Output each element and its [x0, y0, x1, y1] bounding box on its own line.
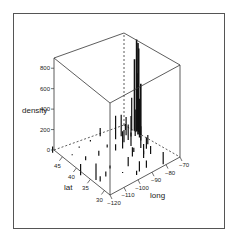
y-tick-label: 30 [96, 197, 103, 203]
z-tick-label: 200 [40, 127, 51, 133]
x-tick-label: −110 [121, 192, 135, 198]
z-axis-title: density [22, 106, 47, 115]
plot-frame [14, 14, 225, 229]
y-tick-label: 45 [54, 163, 61, 169]
plot-area: 020040060080030354045−120−110−100−90−80−… [0, 0, 234, 240]
x-tick [166, 165, 168, 169]
x-tick [124, 187, 126, 191]
y-tick-label: 35 [82, 185, 89, 191]
axes-group: 020040060080030354045−120−110−100−90−80−… [40, 65, 190, 206]
y-tick [73, 168, 76, 172]
bars-group [53, 40, 164, 182]
x-tick-label: −100 [135, 185, 149, 191]
y-tick-label: 40 [68, 174, 75, 180]
box-edge-back-left [54, 125, 124, 150]
x-tick-label: −80 [165, 170, 176, 176]
z-tick-label: 600 [40, 86, 51, 92]
x-tick [110, 195, 112, 199]
x-tick-label: −120 [107, 200, 121, 206]
box-3d-front [54, 33, 180, 195]
box-edge-top-back-left [54, 33, 124, 58]
x-tick-label: −70 [179, 162, 190, 168]
y-tick [59, 157, 62, 161]
box-edge-top-front-right [110, 65, 180, 103]
z-tick-label: 800 [40, 65, 51, 71]
y-tick [87, 179, 90, 183]
x-tick-label: −90 [151, 177, 162, 183]
y-axis-title: lat [64, 183, 73, 192]
y-tick [101, 191, 104, 195]
x-tick [180, 157, 182, 161]
box-edge-top-back-right [124, 33, 180, 65]
box-edge-top-front-left [54, 58, 110, 103]
x-tick [152, 172, 154, 176]
x-axis-title: long [150, 191, 165, 200]
z-tick-label: 0 [47, 147, 51, 153]
x-tick [138, 180, 140, 184]
